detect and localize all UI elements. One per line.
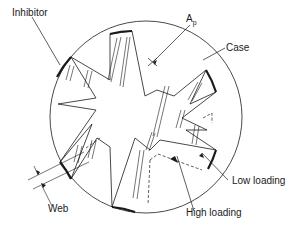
high-loading-outline [148, 160, 150, 205]
inhibitor-arc-right-upper [206, 70, 216, 92]
high-loading-label: High loading [186, 208, 242, 218]
star-grain-diagram [0, 0, 292, 233]
low-loading-leader [202, 153, 228, 180]
low-loading-outline [203, 113, 212, 123]
high-loading-leader [177, 156, 194, 211]
web-label: Web [48, 204, 68, 214]
low-loading-label: Low loading [232, 176, 285, 186]
inhibitor-arc-bottom [112, 207, 135, 212]
inhibitor-arc-lower-left [60, 162, 71, 179]
inhibitor-leader [32, 17, 60, 65]
ap-leader [153, 25, 190, 62]
ap-label-main: A [186, 13, 193, 24]
ap-label: Ap [186, 14, 197, 26]
case-label: Case [226, 43, 249, 53]
case-outline [50, 21, 242, 213]
inhibitor-label: Inhibitor [12, 8, 48, 18]
web-extension-2 [33, 162, 89, 189]
ap-label-sub: p [193, 19, 197, 26]
star-perforation [58, 31, 216, 207]
inhibitor-arc-left [57, 57, 71, 77]
